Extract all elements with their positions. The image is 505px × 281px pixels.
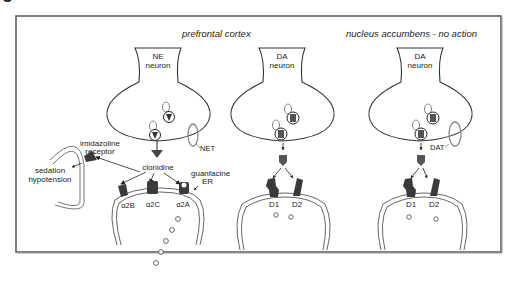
ne-neuron-label-1: NE [152,52,163,61]
d2-signal-icon [289,215,293,219]
hypotension-label: hypotension [28,175,71,184]
alpha2c-label: α2C [146,200,161,209]
clonidine-label: clonidine [142,163,174,172]
da-pfc-label-1: DA [276,52,288,61]
alpha2a-label: α2A [176,200,190,209]
sedation-label: sedation [35,166,65,175]
alpha2b-label: α2B [121,201,135,210]
da-pfc-label-2: neuron [270,61,295,70]
d1-signal-icon [274,213,278,217]
mechanism-diagram: g prefrontal cortex nucleus accumbens - … [0,0,505,281]
d1-signal-icon [407,215,411,219]
guanfacine-label-2: ER [202,177,213,186]
figure-caption-fragment: g [2,0,13,2]
da-nac-label-1: DA [414,52,426,61]
da-nac-label-2: neuron [408,61,433,70]
dat-label: DAT [430,143,445,152]
d1-label-pfc: D1 [269,200,280,209]
imidazoline-label-2: receptor [85,147,115,156]
d2-label-nac: D2 [429,200,440,209]
d2-label-pfc: D2 [292,200,303,209]
d2-signal-icon [434,217,438,221]
d1-label-nac: D1 [406,200,417,209]
ne-neuron-label-2: neuron [146,61,171,70]
net-label: NET [200,144,215,153]
alpha2c-receptor-icon [147,181,158,194]
region-title-nucleus-accumbens: nucleus accumbens - no action [346,28,477,39]
region-title-prefrontal-cortex: prefrontal cortex [181,28,252,39]
